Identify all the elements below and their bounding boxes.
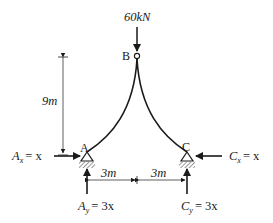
arch-diagram: B 60kN 9m A C Ax= x Cx= x Ay= 3x Cy= 3x	[0, 0, 273, 223]
support-c-pin-icon	[179, 152, 195, 168]
arch-member	[87, 59, 187, 152]
reaction-cx-label: Cx= x	[229, 149, 260, 165]
node-a-label: A	[80, 141, 89, 155]
height-dimension	[58, 57, 68, 155]
span-right-label: 3m	[150, 166, 166, 180]
height-dimension-label: 9m	[42, 94, 57, 108]
arch-left-segment	[87, 59, 137, 152]
node-b-label: B	[122, 49, 130, 63]
reaction-ay-label: Ay= 3x	[77, 199, 115, 215]
arch-right-segment	[137, 59, 187, 152]
load-label: 60kN	[124, 10, 151, 24]
reaction-ax-label: Ax= x	[11, 149, 42, 165]
node-c-label: C	[182, 140, 190, 154]
span-left-label: 3m	[100, 166, 116, 180]
hinge-b-icon	[134, 53, 139, 58]
reaction-cy-label: Cy= 3x	[181, 199, 218, 215]
